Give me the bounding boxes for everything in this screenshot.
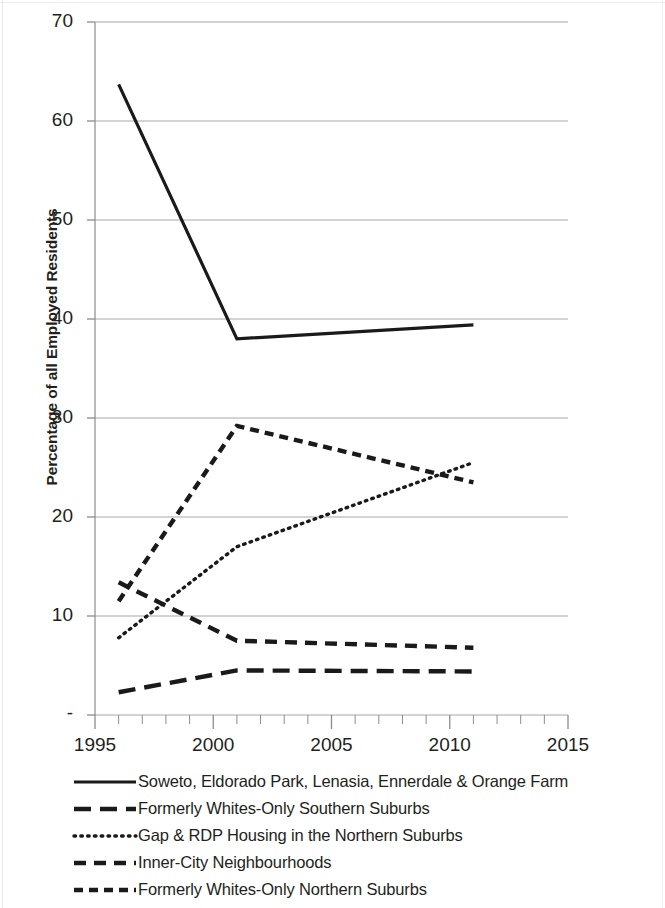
x-axis-ticks xyxy=(95,715,568,729)
legend-swatch-icon xyxy=(72,880,138,900)
legend-swatch-icon xyxy=(72,853,138,873)
legend-item[interactable]: Gap & RDP Housing in the Northern Suburb… xyxy=(72,822,662,849)
legend-label: Gap & RDP Housing in the Northern Suburb… xyxy=(138,826,463,845)
series-line-0 xyxy=(119,84,474,338)
legend-swatch-icon xyxy=(72,772,138,792)
chart-figure: Percentage of all Employed Residents 706… xyxy=(0,0,665,908)
y-tick-label: 40 xyxy=(27,308,73,327)
legend-swatch-icon xyxy=(72,799,138,819)
data-series-group xyxy=(119,84,474,692)
y-tick-label: - xyxy=(27,703,73,722)
y-tick-label: 30 xyxy=(27,407,73,426)
x-tick-label: 2010 xyxy=(415,735,485,754)
x-tick-label: 1995 xyxy=(60,735,130,754)
y-tick-label: 10 xyxy=(27,605,73,624)
legend-label: Soweto, Eldorado Park, Lenasia, Ennerdal… xyxy=(138,772,568,791)
y-axis-ticks xyxy=(87,22,95,715)
legend-label: Inner-City Neighbourhoods xyxy=(138,853,331,872)
x-tick-label: 2005 xyxy=(297,735,367,754)
x-tick-label: 2000 xyxy=(178,735,248,754)
gridlines xyxy=(95,22,568,715)
legend-item[interactable]: Formerly Whites-Only Southern Suburbs xyxy=(72,795,662,822)
x-tick-label: 2015 xyxy=(533,735,603,754)
legend-item[interactable]: Inner-City Neighbourhoods xyxy=(72,849,662,876)
legend-swatch-icon xyxy=(72,826,138,846)
series-line-4 xyxy=(119,426,474,601)
plot-area: Percentage of all Employed Residents 706… xyxy=(0,0,665,760)
legend-item[interactable]: Formerly Whites-Only Northern Suburbs xyxy=(72,876,662,903)
series-line-2 xyxy=(119,463,474,638)
chart-legend: Soweto, Eldorado Park, Lenasia, Ennerdal… xyxy=(72,768,662,903)
y-tick-label: 50 xyxy=(27,209,73,228)
series-line-3 xyxy=(119,582,474,647)
legend-item[interactable]: Soweto, Eldorado Park, Lenasia, Ennerdal… xyxy=(72,768,662,795)
chart-canvas xyxy=(0,0,665,760)
y-tick-label: 70 xyxy=(27,11,73,30)
legend-label: Formerly Whites-Only Northern Suburbs xyxy=(138,880,427,899)
series-line-1 xyxy=(119,670,474,692)
y-tick-label: 20 xyxy=(27,506,73,525)
y-tick-label: 60 xyxy=(27,110,73,129)
legend-label: Formerly Whites-Only Southern Suburbs xyxy=(138,799,430,818)
